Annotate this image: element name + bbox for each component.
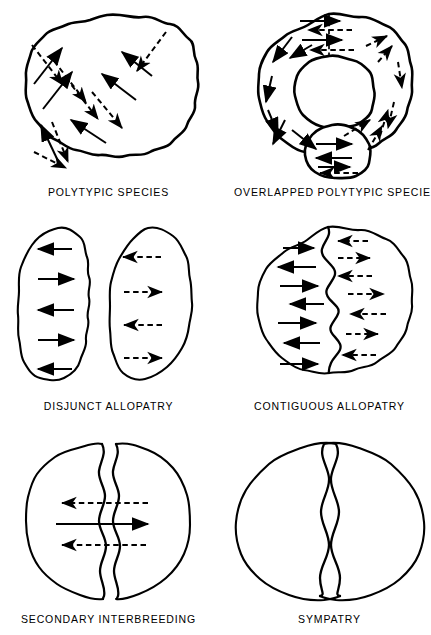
secondary-interbreeding-illustration (6, 438, 211, 610)
panel-disjunct-allopatry-label: DISJUNCT ALLOPATRY (12, 400, 205, 413)
figure-species-distribution-patterns: POLYTYPIC SPECIES (0, 0, 431, 635)
contiguous-left-solid-arrows (278, 248, 324, 364)
panel-contiguous-allopatry-label: CONTIGUOUS ALLOPATRY (234, 400, 425, 413)
disjunct-left-solid-arrows (38, 249, 74, 369)
contiguous-allopatry-illustration (228, 222, 431, 397)
panel-overlapped-polytypic-species-label: OVERLAPPED POLYTYPIC SPECIES (234, 186, 425, 199)
contiguous-right-dashed-arrows (338, 241, 386, 355)
panel-overlapped-polytypic-species: OVERLAPPED POLYTYPIC SPECIES (228, 10, 431, 208)
sympatry-illustration (228, 438, 431, 610)
panel-polytypic-species-label: POLYTYPIC SPECIES (12, 186, 205, 199)
disjunct-right-dashed-arrows (123, 257, 162, 358)
polytypic-species-illustration (6, 10, 211, 185)
panel-sympatry: SYMPATRY (228, 438, 431, 633)
panel-sympatry-label: SYMPATRY (234, 613, 425, 626)
panel-contiguous-allopatry: CONTIGUOUS ALLOPATRY (228, 222, 431, 420)
disjunct-allopatry-illustration (6, 222, 211, 397)
panel-secondary-interbreeding: SECONDARY INTERBREEDING (6, 438, 211, 633)
panel-polytypic-species: POLYTYPIC SPECIES (6, 10, 211, 208)
panel-disjunct-allopatry: DISJUNCT ALLOPATRY (6, 222, 211, 420)
panel-secondary-interbreeding-label: SECONDARY INTERBREEDING (12, 613, 205, 626)
overlapped-polytypic-species-illustration (228, 10, 431, 185)
